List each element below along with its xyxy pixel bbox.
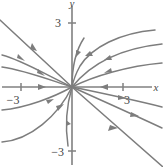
arrowhead-upper-left-mid <box>17 54 25 61</box>
trajectories-group <box>0 20 163 167</box>
trajectory-lower-right-steep <box>72 87 163 167</box>
arrowhead-x-axis-left <box>38 84 46 90</box>
axes-group <box>2 6 152 165</box>
trajectory-upper-right-inner <box>72 63 162 87</box>
y-tick-label-positive-3: 3 <box>55 16 61 30</box>
trajectory-upper-left-mid <box>2 55 72 87</box>
phase-portrait-figure: −3 3 3 −3 x y <box>0 0 163 167</box>
trajectory-upper-left-steep <box>0 20 72 87</box>
trajectory-lower-right-mid <box>72 87 162 128</box>
x-tick-label-negative-3: −3 <box>7 93 20 107</box>
arrowhead-lower-left-upper <box>46 99 54 104</box>
arrowhead-upper-right-outer <box>104 55 112 60</box>
y-tick-label-negative-3: −3 <box>51 145 64 159</box>
phase-portrait-svg: −3 3 3 −3 x y <box>0 0 163 167</box>
arrowhead-x-axis-right <box>100 84 108 90</box>
arrowhead-vertical-lower <box>66 120 71 126</box>
arrowhead-vertical-upper <box>76 50 81 57</box>
trajectory-lower-right-shallow <box>72 87 162 107</box>
y-axis-label: y <box>69 0 75 9</box>
x-axis-label: x <box>153 81 159 93</box>
axis-labels-group: −3 3 3 −3 x y <box>7 0 159 159</box>
